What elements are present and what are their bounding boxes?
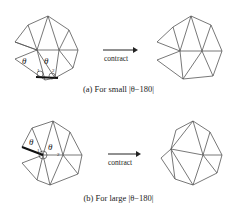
vertex-label-b2: 2 [57,152,60,157]
mesh-b-before [22,121,82,185]
theta-label-b1: θ [29,137,33,147]
theta-label-b2: θ [48,142,52,152]
contract-label-a: contract [104,54,128,63]
theta-label-a1: θ [22,56,26,66]
caption-a: (a) For small |θ−180| [0,84,237,94]
vertex-label-a2: 2 [52,68,55,73]
diagram-canvas [0,0,237,215]
mesh-b-after [161,121,222,185]
contract-label-b: contract [108,158,132,167]
vertex-label-a1: 1 [37,68,40,73]
vertex-label-b1: 1 [37,148,40,153]
mesh-a-after [157,16,222,79]
caption-b: (b) For large |θ−180| [0,193,237,203]
theta-label-a2: θ [44,56,48,66]
mesh-a-before [15,16,78,80]
